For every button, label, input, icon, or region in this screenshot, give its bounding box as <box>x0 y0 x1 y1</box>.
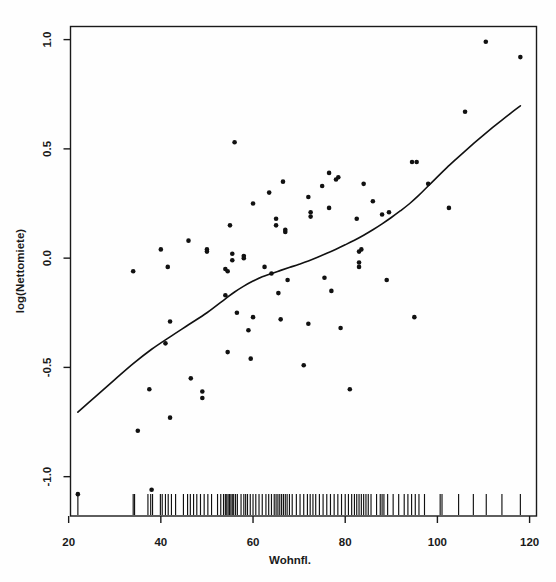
y-axis-title: log(Nettomiete) <box>14 229 26 314</box>
y-tick-label: 1.0 <box>41 32 53 48</box>
x-tick-label: 20 <box>62 536 75 548</box>
data-point <box>285 278 290 283</box>
data-point <box>463 109 468 114</box>
data-point <box>269 271 274 276</box>
data-point <box>248 356 253 361</box>
data-point <box>336 175 341 180</box>
data-point <box>168 415 173 420</box>
data-point <box>329 289 334 294</box>
data-point <box>447 206 452 211</box>
rug-marks-group <box>78 494 520 515</box>
data-point <box>149 487 154 492</box>
data-point <box>357 265 362 270</box>
data-point <box>322 276 327 281</box>
data-point <box>165 265 170 270</box>
data-point <box>301 363 306 368</box>
data-point <box>518 55 523 60</box>
data-point <box>267 190 272 195</box>
y-axis-ticks <box>64 40 71 477</box>
data-point <box>168 319 173 324</box>
y-tick-label: 0.0 <box>41 250 53 266</box>
x-axis-tick-labels: 20406080100120 <box>62 536 539 548</box>
data-point <box>163 341 168 346</box>
y-tick-label: -0.5 <box>41 357 53 377</box>
data-point <box>230 258 235 263</box>
data-point <box>205 249 210 254</box>
data-point <box>320 184 325 189</box>
data-point <box>354 217 359 222</box>
x-tick-label: 80 <box>339 536 352 548</box>
data-point <box>147 387 152 392</box>
data-point <box>131 269 136 274</box>
data-point <box>251 315 256 320</box>
data-point <box>426 182 431 187</box>
data-point <box>283 227 288 232</box>
data-point <box>361 182 366 187</box>
data-point <box>232 140 237 145</box>
x-tick-label: 100 <box>428 536 447 548</box>
data-point <box>200 396 205 401</box>
x-axis-ticks <box>69 516 530 523</box>
data-point <box>338 326 343 331</box>
x-tick-label: 120 <box>520 536 539 548</box>
data-point <box>189 376 194 381</box>
data-point <box>348 387 353 392</box>
data-point <box>262 265 267 270</box>
data-point <box>308 210 313 215</box>
data-point <box>327 171 332 176</box>
data-point <box>235 310 240 315</box>
x-tick-label: 40 <box>154 536 167 548</box>
data-point <box>230 251 235 256</box>
fit-curve-line <box>78 106 521 412</box>
data-point <box>159 247 164 252</box>
data-point <box>306 195 311 200</box>
data-point <box>384 278 389 283</box>
y-axis-tick-labels: -1.0-0.50.00.51.0 <box>41 32 53 487</box>
data-point <box>136 428 141 433</box>
data-point <box>414 160 419 165</box>
data-point <box>357 260 362 265</box>
data-point <box>327 206 332 211</box>
data-point <box>274 223 279 228</box>
data-point <box>276 291 281 296</box>
data-point <box>228 223 233 228</box>
data-point <box>308 214 313 219</box>
data-point <box>380 212 385 217</box>
x-tick-label: 60 <box>247 536 260 548</box>
y-tick-label: 0.5 <box>41 140 53 157</box>
data-point <box>359 247 364 252</box>
data-point <box>278 317 283 322</box>
data-point <box>223 293 228 298</box>
data-point <box>412 315 417 320</box>
data-point <box>225 269 230 274</box>
data-point <box>306 321 311 326</box>
data-point <box>76 492 81 497</box>
data-point <box>274 217 279 222</box>
plot-canvas: -1.0-0.50.00.51.0 20406080100120 Wohnfl.… <box>0 0 556 582</box>
plot-frame-box <box>71 27 537 517</box>
data-point <box>410 160 415 165</box>
data-point <box>242 254 247 259</box>
data-point <box>371 199 376 204</box>
data-point <box>246 328 251 333</box>
data-point <box>387 210 392 215</box>
scatter-points-group <box>76 40 523 497</box>
data-point <box>251 201 256 206</box>
data-point <box>484 40 489 45</box>
y-tick-label: -1.0 <box>41 467 53 487</box>
data-point <box>225 350 230 355</box>
x-axis-title: Wohnfl. <box>269 554 311 566</box>
data-point <box>186 238 191 243</box>
scatter-plot-figure: -1.0-0.50.00.51.0 20406080100120 Wohnfl.… <box>0 0 556 582</box>
data-point <box>281 179 286 184</box>
data-point <box>200 389 205 394</box>
